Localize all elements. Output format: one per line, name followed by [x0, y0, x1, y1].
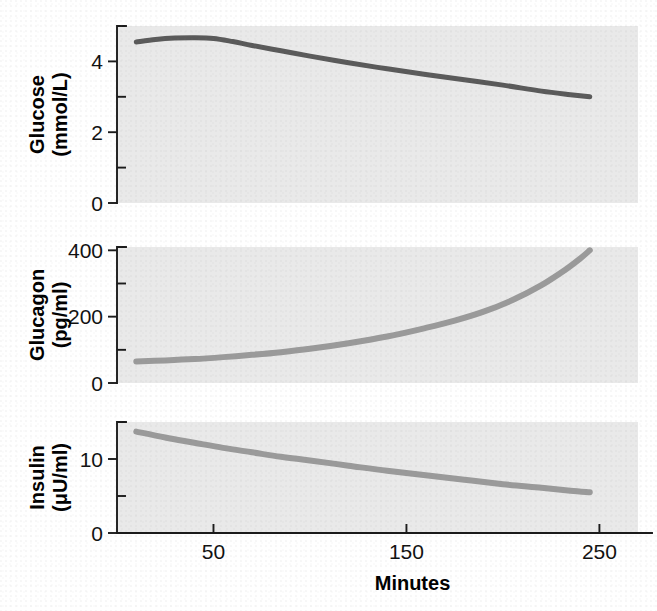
- y-axis-title-line2-glucagon: (pg/ml): [49, 282, 71, 349]
- stacked-line-chart: 024Glucose(mmol/L)0200400Glucagon(pg/ml)…: [0, 0, 657, 611]
- panel-insulin: 010Insulin(μU/ml)50150250Minutes: [26, 422, 652, 594]
- y-tick-label-glucagon-200: 200: [68, 305, 103, 328]
- y-axis-title-line1-insulin: Insulin: [26, 445, 48, 509]
- panel-background-glucagon: [118, 247, 638, 383]
- x-axis-title: Minutes: [375, 572, 451, 594]
- y-axis-title-line2-insulin: (μU/ml): [49, 443, 71, 512]
- panel-glucagon: 0200400Glucagon(pg/ml): [26, 239, 638, 395]
- y-tick-label-glucagon-0: 0: [91, 372, 103, 395]
- panel-glucose: 024Glucose(mmol/L): [26, 26, 638, 215]
- x-tick-label-50: 50: [202, 540, 225, 563]
- figure-container: 024Glucose(mmol/L)0200400Glucagon(pg/ml)…: [0, 0, 657, 611]
- panel-background-glucose: [118, 26, 638, 203]
- y-tick-label-glucagon-400: 400: [68, 239, 103, 262]
- y-tick-label-insulin-10: 10: [80, 448, 103, 471]
- y-axis-title-glucagon: Glucagon(pg/ml): [26, 269, 71, 361]
- y-axis-title-insulin: Insulin(μU/ml): [26, 443, 71, 512]
- x-tick-label-250: 250: [582, 540, 617, 563]
- y-axis-title-line1-glucagon: Glucagon: [26, 269, 48, 361]
- y-axis-title-line1-glucose: Glucose: [26, 75, 48, 154]
- panel-background-insulin: [118, 422, 638, 533]
- y-tick-label-glucose-2: 2: [91, 121, 103, 144]
- y-tick-label-insulin-0: 0: [91, 522, 103, 545]
- y-axis-title-line2-glucose: (mmol/L): [49, 72, 71, 156]
- y-axis-title-glucose: Glucose(mmol/L): [26, 72, 71, 156]
- x-tick-label-150: 150: [389, 540, 424, 563]
- y-tick-label-glucose-4: 4: [91, 50, 103, 73]
- y-tick-label-glucose-0: 0: [91, 192, 103, 215]
